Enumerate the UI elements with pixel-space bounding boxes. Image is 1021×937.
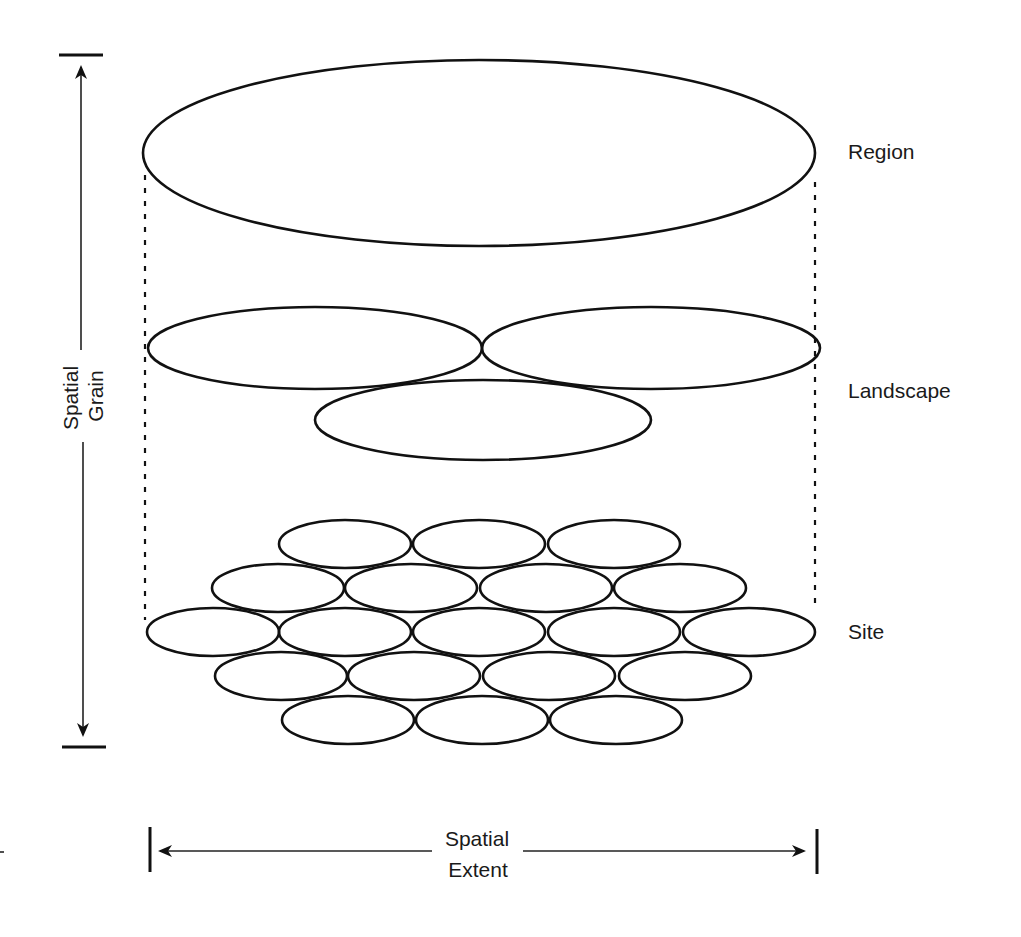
site-ellipse: [548, 520, 680, 568]
site-ellipse: [147, 608, 279, 656]
site-ellipse: [550, 696, 682, 744]
landscape-label: Landscape: [848, 379, 951, 402]
region-level: Region: [143, 60, 915, 246]
spatial-scale-diagram: Spatial Grain Spatial Extent Region Land…: [0, 0, 1021, 937]
landscape-ellipse: [482, 307, 820, 389]
site-ellipse: [413, 608, 545, 656]
site-ellipse: [480, 564, 612, 612]
site-ellipse: [683, 608, 815, 656]
site-level: Site: [147, 520, 884, 744]
landscape-ellipse: [315, 380, 651, 460]
site-ellipse: [413, 520, 545, 568]
spatial-grain-axis: Spatial Grain: [59, 55, 107, 747]
site-ellipse: [483, 652, 615, 700]
site-ellipse: [548, 608, 680, 656]
extent-label-line2: Extent: [448, 858, 508, 881]
site-ellipse: [279, 520, 411, 568]
site-ellipse: [348, 652, 480, 700]
site-ellipse: [212, 564, 344, 612]
site-ellipse: [215, 652, 347, 700]
site-ellipse: [619, 652, 751, 700]
region-label: Region: [848, 140, 915, 163]
site-ellipse: [416, 696, 548, 744]
site-ellipse: [282, 696, 414, 744]
landscape-level: Landscape: [148, 307, 951, 460]
extent-label-line1: Spatial: [445, 827, 509, 850]
site-ellipse: [345, 564, 477, 612]
grain-label-line2: Grain: [84, 370, 107, 421]
region-ellipse: [143, 60, 815, 246]
landscape-ellipse: [148, 307, 482, 389]
spatial-extent-axis: Spatial Extent: [150, 827, 817, 881]
site-ellipse: [614, 564, 746, 612]
site-label: Site: [848, 620, 884, 643]
grain-label-line1: Spatial: [59, 366, 82, 430]
site-ellipse: [279, 608, 411, 656]
